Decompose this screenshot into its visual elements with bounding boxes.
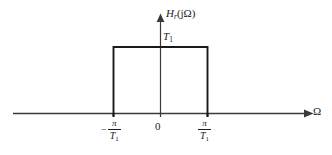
negative-cutoff-minus-sign: − [101,124,107,135]
positive-cutoff-numerator: π [200,119,209,129]
vertical-axis-label-base: H [166,7,174,19]
vertical-axis-arrowhead [157,14,165,23]
amplitude-label: T1 [163,31,173,43]
vertical-axis-label: Hr(jΩ) [166,8,195,20]
vertical-axis-label-argument: (jΩ) [177,7,196,19]
horizontal-axis-label: Ω [313,106,321,117]
positive-cutoff-denominator: T1 [198,130,211,143]
origin-tick-label: 0 [155,121,161,132]
positive-cutoff-denominator-subscript: 1 [206,135,210,143]
frequency-response-figure: Hr(jΩ) T1 Ω 0 − π T1 π T1 [0,0,332,155]
positive-cutoff-fraction: π T1 [198,119,211,143]
negative-cutoff-denominator-subscript: 1 [115,135,119,143]
negative-cutoff-denominator: T1 [108,130,121,143]
negative-cutoff-numerator: π [110,119,119,129]
amplitude-label-subscript: 1 [169,35,173,44]
figure-canvas [0,0,332,155]
negative-cutoff-fraction: π T1 [108,119,121,143]
positive-cutoff-tick-label: π T1 [198,119,211,143]
negative-cutoff-tick-label: − π T1 [101,119,121,143]
